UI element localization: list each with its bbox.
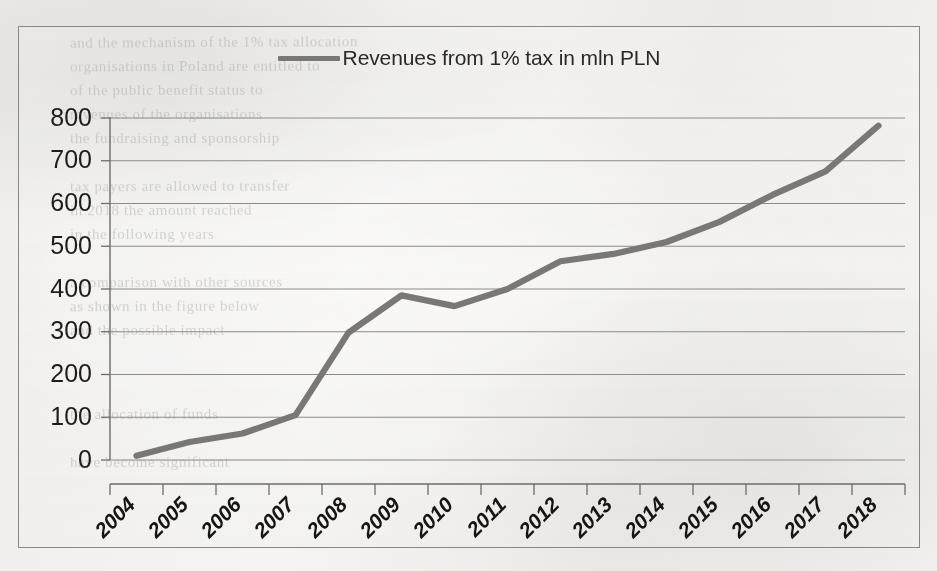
x-tick-label: 2005 — [142, 492, 192, 542]
data-series-group — [137, 126, 879, 456]
x-tick-label: 2008 — [301, 492, 351, 542]
x-tick-label: 2011 — [461, 493, 510, 542]
series-line-revenues — [137, 126, 879, 456]
x-tick-label: 2017 — [778, 492, 829, 543]
x-tick-label: 2013 — [566, 492, 616, 542]
y-tick-labels-group: 0100200300400500600700800 — [50, 103, 92, 473]
x-tick-label: 2004 — [89, 492, 139, 542]
y-tick-label: 200 — [50, 359, 92, 387]
x-tick-label: 2007 — [248, 492, 299, 543]
x-tick-label: 2016 — [725, 492, 775, 542]
y-axis-group — [101, 117, 110, 460]
x-tick-label: 2014 — [619, 492, 669, 542]
y-tick-label: 100 — [50, 402, 92, 430]
x-tick-label: 2010 — [407, 492, 457, 542]
x-tick-label: 2009 — [354, 492, 404, 542]
y-tick-label: 0 — [78, 445, 92, 473]
plot-area: 0100200300400500600700800 20042005200620… — [18, 26, 920, 548]
x-tick-label: 2012 — [513, 492, 563, 542]
plot-svg: 0100200300400500600700800 20042005200620… — [18, 26, 920, 548]
y-tick-label: 800 — [50, 103, 92, 131]
y-tick-label: 600 — [50, 188, 92, 216]
x-tick-label: 2018 — [831, 492, 881, 542]
y-tick-label: 500 — [50, 231, 92, 259]
x-tick-label: 2006 — [195, 492, 245, 542]
x-tick-labels-group: 2004200520062007200820092010201120122013… — [89, 492, 881, 543]
y-tick-label: 400 — [50, 274, 92, 302]
scanned-page: and the mechanism of the 1% tax allocati… — [0, 0, 937, 571]
x-tick-label: 2015 — [672, 492, 722, 542]
y-tick-label: 700 — [50, 145, 92, 173]
y-tick-label: 300 — [50, 316, 92, 344]
line-chart: Revenues from 1% tax in mln PLN 01002003… — [18, 26, 920, 548]
